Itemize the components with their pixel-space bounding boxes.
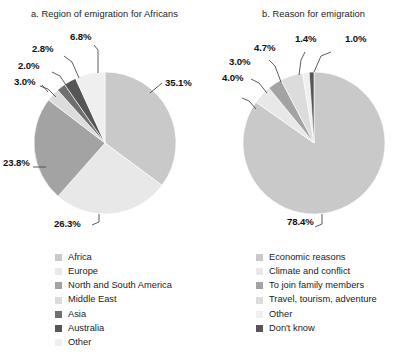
legend-color-swatch — [256, 268, 263, 275]
legend-item-label: To join family members — [269, 281, 364, 290]
leader-line — [64, 56, 79, 78]
panel-b-legend-item[interactable]: Don't know — [256, 321, 418, 335]
panel-b-label-climate: 4.0% — [222, 72, 243, 83]
panel-a-label-asia: 2.0% — [18, 60, 39, 71]
panel-b-legend-item[interactable]: Economic reasons — [256, 250, 418, 264]
panel-b-label-family: 3.0% — [229, 56, 250, 67]
legend-item-label: North and South America — [68, 281, 172, 290]
legend-item-label: Travel, tourism, adventure — [269, 295, 377, 304]
panel-reason-for-emigration: b. Reason for emigration 78.4% 4.0% 3.0%… — [209, 0, 418, 359]
legend-item-label: Australia — [68, 324, 104, 333]
legend-item-label: Don't know — [269, 324, 315, 333]
panel-b-legend: Economic reasonsClimate and conflictTo j… — [209, 250, 418, 336]
panel-a-pie-wrap: 35.1% 26.3% 23.8% 3.0% 2.0% 2.8% 6.8% — [0, 0, 209, 248]
legend-color-swatch — [55, 311, 62, 318]
legend-item-label: Other — [68, 338, 91, 347]
panel-b-label-other: 1.4% — [295, 33, 316, 44]
legend-color-swatch — [55, 282, 62, 289]
legend-item-label: Africa — [68, 253, 92, 262]
panel-a-label-other: 6.8% — [70, 31, 91, 42]
legend-color-swatch — [256, 282, 263, 289]
legend-color-swatch — [256, 254, 263, 261]
legend-color-swatch — [256, 297, 263, 304]
panel-a-label-africa: 35.1% — [165, 77, 192, 88]
legend-item-label: Climate and conflict — [269, 267, 350, 276]
panel-b-legend-item[interactable]: Climate and conflict — [256, 264, 418, 278]
panel-a-label-europe: 26.3% — [54, 218, 81, 229]
leader-line — [150, 83, 162, 93]
legend-color-swatch — [55, 297, 62, 304]
leader-line — [314, 52, 331, 72]
legend-color-swatch — [55, 254, 62, 261]
leader-line — [92, 214, 99, 225]
leader-line — [52, 72, 66, 85]
panel-region-of-emigration: a. Region of emigration for Africans 35.… — [0, 0, 209, 359]
legend-item-label: Middle East — [68, 295, 117, 304]
panel-a-pie-svg — [0, 0, 209, 248]
leader-line — [251, 79, 267, 93]
legend-color-swatch — [55, 268, 62, 275]
legend-color-swatch — [55, 339, 62, 346]
panel-b-legend-item[interactable]: To join family members — [256, 279, 418, 293]
panel-b-pie-wrap: 78.4% 4.0% 3.0% 4.7% 1.4% 1.0% — [209, 0, 418, 248]
legend-item-label: Economic reasons — [269, 253, 345, 262]
leader-line — [315, 214, 322, 227]
panel-b-legend-item[interactable]: Travel, tourism, adventure — [256, 293, 418, 307]
leader-line — [94, 45, 98, 73]
panel-b-label-dont-know: 1.0% — [345, 33, 366, 44]
panel-b-legend-item[interactable]: Other — [256, 307, 418, 321]
legend-color-swatch — [256, 325, 263, 332]
legend-item-label: Asia — [68, 310, 86, 319]
panel-a-label-australia: 2.8% — [32, 43, 53, 54]
legend-item-label: Europe — [68, 267, 98, 276]
figure-two-pie-charts: a. Region of emigration for Africans 35.… — [0, 0, 418, 359]
legend-color-swatch — [55, 325, 62, 332]
panel-a-label-middle-east: 3.0% — [14, 76, 35, 87]
legend-color-swatch — [256, 311, 263, 318]
leader-line — [269, 60, 281, 82]
leader-line — [299, 52, 305, 75]
panel-b-label-economic: 78.4% — [287, 216, 314, 227]
legend-item-label: Other — [269, 310, 292, 319]
panel-a-label-americas: 23.8% — [3, 157, 30, 168]
panel-b-label-travel: 4.7% — [254, 42, 275, 53]
